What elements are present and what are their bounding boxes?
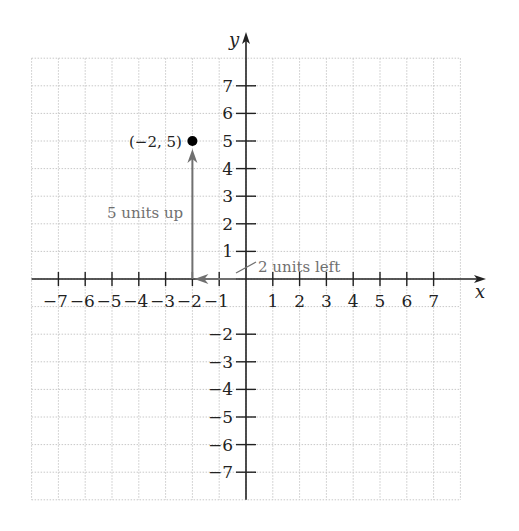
y-tick-label: 1: [222, 241, 233, 261]
x-tick-label: 5: [375, 291, 386, 311]
left-annotation-label: 2 units left: [258, 258, 340, 276]
y-tick-label: 5: [222, 131, 233, 151]
y-tick-label: 7: [222, 76, 233, 96]
y-tick-label: 6: [222, 103, 233, 123]
x-tick-label: 6: [401, 291, 412, 311]
y-tick-label: −3: [208, 352, 233, 372]
coordinate-plane: −7−6−5−4−3−2−11234567−7−6−5−4−3−21234567…: [0, 0, 519, 531]
x-tick-label: −1: [204, 291, 229, 311]
y-tick-label: −4: [208, 379, 233, 399]
y-tick-label: −6: [208, 435, 233, 455]
point-label: (−2, 5): [129, 133, 182, 151]
y-tick-label: −2: [208, 324, 233, 344]
x-tick-label: 4: [348, 291, 359, 311]
x-tick-label: −3: [150, 291, 175, 311]
x-tick-label: 1: [267, 291, 278, 311]
x-tick-label: −5: [96, 291, 121, 311]
x-tick-label: −2: [177, 291, 202, 311]
y-tick-label: 3: [222, 186, 233, 206]
y-tick-label: 4: [222, 159, 233, 179]
x-tick-label: −4: [123, 291, 148, 311]
y-tick-label: −7: [208, 462, 233, 482]
up-annotation-label: 5 units up: [107, 204, 183, 222]
y-tick-label: 2: [222, 214, 233, 234]
x-tick-label: 2: [294, 291, 305, 311]
y-tick-label: −5: [208, 407, 233, 427]
y-axis-label: y: [228, 29, 240, 50]
x-tick-label: 7: [428, 291, 439, 311]
x-tick-label: 3: [321, 291, 332, 311]
x-axis-label: x: [475, 281, 485, 302]
point-marker: [187, 136, 197, 146]
x-tick-label: −6: [70, 291, 95, 311]
x-tick-label: −7: [43, 291, 68, 311]
